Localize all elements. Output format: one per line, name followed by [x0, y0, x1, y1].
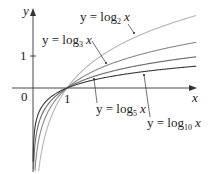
leader-log3	[92, 41, 106, 63]
y-axis-label: y	[21, 3, 29, 18]
leader-log5	[94, 79, 97, 103]
label-log10: y = log10x	[147, 115, 201, 132]
origin-label: 0	[21, 89, 28, 104]
y-tick-label-1: 1	[20, 48, 27, 63]
label-log3: y = log3x	[42, 32, 92, 49]
x-tick-label-1: 1	[64, 91, 71, 106]
log-curves-chart: y x 1 0 1 y = log2x y = log3x y = log5x …	[0, 0, 209, 174]
x-axis-label: x	[191, 90, 198, 105]
y-axis-arrow-icon	[30, 8, 36, 16]
leader-log2	[128, 24, 134, 33]
axes	[12, 8, 197, 172]
label-log5: y = log5x	[96, 101, 146, 118]
label-log2: y = log2x	[80, 9, 130, 26]
